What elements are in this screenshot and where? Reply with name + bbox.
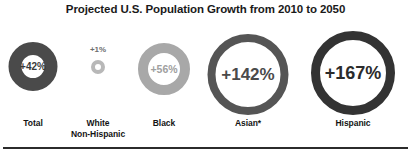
- category-label-black: Black: [133, 118, 195, 129]
- ring-area-asian: +142%: [207, 20, 289, 118]
- ring-black[interactable]: +56%: [138, 43, 190, 95]
- category-label-asian-text: Asian*: [235, 118, 261, 128]
- bubble-group-total: +42% Total: [0, 20, 66, 140]
- category-label-white-non-hispanic: White Non-Hispanic: [58, 118, 138, 139]
- ring-wrap-hispanic: +167%: [311, 31, 395, 115]
- ring-area-total: +42%: [0, 20, 66, 118]
- ring-area-hispanic: +167%: [310, 20, 396, 118]
- bubble-group-black: +56% Black: [133, 20, 195, 140]
- ring-value-white: +1%: [90, 45, 106, 54]
- category-label-total-text: Total: [23, 118, 42, 128]
- ring-hispanic[interactable]: +167%: [311, 31, 395, 115]
- category-label-hispanic: Hispanic: [310, 118, 396, 129]
- ring-value-total: +42%: [20, 62, 46, 72]
- ring-wrap-total: +42%: [9, 42, 58, 91]
- ring-area-black: +56%: [133, 20, 195, 118]
- bubble-group-white-non-hispanic: +1% White Non-Hispanic: [58, 20, 138, 140]
- ring-wrap-asian: +142%: [208, 34, 289, 115]
- bubble-group-asian: +142% Asian*: [207, 20, 289, 140]
- bubble-row: +42% Total +1% White Non-Hispanic: [0, 20, 411, 140]
- ring-wrap-black: +56%: [138, 43, 190, 95]
- ring-area-white: +1%: [58, 20, 138, 118]
- bubble-group-hispanic: +167% Hispanic: [310, 20, 396, 140]
- population-growth-chart: Projected U.S. Population Growth from 20…: [0, 0, 411, 155]
- ring-total[interactable]: +42%: [9, 42, 58, 91]
- ring-value-asian: +142%: [221, 66, 274, 83]
- category-label-white-line2: Non-Hispanic: [71, 129, 125, 139]
- ring-value-hispanic: +167%: [325, 64, 382, 82]
- category-label-asian: Asian*: [207, 118, 289, 129]
- ring-asian[interactable]: +142%: [208, 34, 289, 115]
- ring-white-non-hispanic[interactable]: [91, 60, 105, 74]
- category-label-black-text: Black: [153, 118, 175, 128]
- ring-wrap-white: [91, 60, 105, 74]
- ring-value-black: +56%: [150, 64, 177, 75]
- footer-rule: [3, 147, 408, 149]
- category-label-hispanic-text: Hispanic: [335, 118, 370, 128]
- category-label-white-line1: White: [87, 118, 110, 128]
- chart-title: Projected U.S. Population Growth from 20…: [0, 3, 411, 15]
- category-label-total: Total: [0, 118, 66, 129]
